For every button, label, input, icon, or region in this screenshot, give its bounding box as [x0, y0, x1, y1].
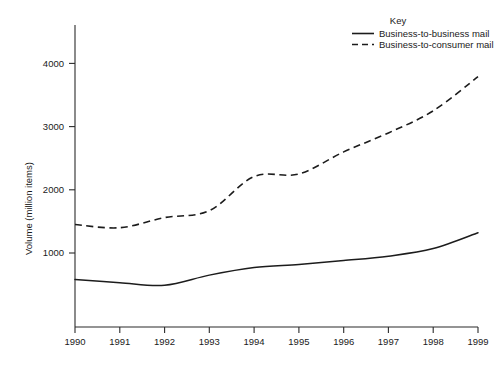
y-tick-label-2000: 2000 [43, 184, 64, 195]
y-tick-label-1000: 1000 [43, 247, 64, 258]
legend-title: Key [390, 15, 407, 26]
x-tick-label-1998: 1998 [423, 336, 444, 347]
x-tick-label-1993: 1993 [199, 336, 220, 347]
legend-label-business-to-consumer: Business-to-consumer mail [379, 39, 494, 50]
x-tick-label-1999: 1999 [467, 336, 488, 347]
x-tick-label-1996: 1996 [333, 336, 354, 347]
x-tick-label-1991: 1991 [109, 336, 130, 347]
legend: Key Business-to-business mail Business-t… [352, 15, 494, 50]
x-tick-label-1994: 1994 [244, 336, 265, 347]
series-line-business-to-business [75, 233, 478, 286]
x-tick-label-1990: 1990 [64, 336, 85, 347]
x-tick-label-1992: 1992 [154, 336, 175, 347]
y-tick-label-3000: 3000 [43, 121, 64, 132]
series-line-business-to-consumer [75, 77, 478, 228]
legend-label-business-to-business: Business-to-business mail [379, 28, 489, 39]
y-axis-title: Volume (million items) [23, 162, 34, 255]
line-chart-canvas: 4000 3000 2000 1000 Volume (million item… [0, 0, 502, 369]
x-tick-label-1997: 1997 [378, 336, 399, 347]
y-tick-label-4000: 4000 [43, 58, 64, 69]
chart-figure: 4000 3000 2000 1000 Volume (million item… [0, 0, 502, 369]
x-tick-label-1995: 1995 [288, 336, 309, 347]
